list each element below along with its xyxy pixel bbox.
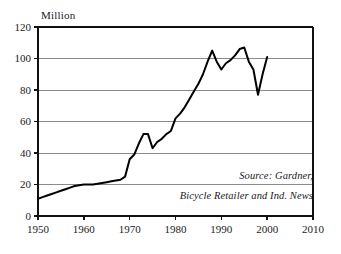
y-axis-tick-label: 80: [3, 85, 31, 96]
data-series-line: [38, 47, 267, 198]
x-axis-tick-label: 1960: [64, 224, 104, 235]
x-axis-tick-label: 1980: [156, 224, 196, 235]
y-axis-tick-label: 40: [3, 148, 31, 159]
y-axis-tick-label: 120: [3, 22, 31, 33]
y-axis-tick-label: 100: [3, 53, 31, 64]
bicycle-production-chart: Million 020406080100120 1950196019701980…: [0, 0, 341, 254]
source-attribution-line-1: Source: Gardner,: [239, 170, 313, 181]
x-axis-tick-label: 1950: [18, 224, 58, 235]
x-axis-tick-label: 1970: [110, 224, 150, 235]
y-axis-tick-label: 0: [3, 211, 31, 222]
y-axis-tick-label: 60: [3, 116, 31, 127]
chart-plot-area: [0, 0, 341, 254]
x-axis-tick-label: 2010: [293, 224, 333, 235]
gridlines: [38, 59, 313, 185]
y-axis-tick-label: 20: [3, 179, 31, 190]
source-attribution-line-2: Bicycle Retailer and Ind. News: [180, 190, 313, 201]
x-axis-tick-label: 1990: [201, 224, 241, 235]
y-axis-unit-label: Million: [41, 9, 75, 21]
x-axis-tick-label: 2000: [247, 224, 287, 235]
